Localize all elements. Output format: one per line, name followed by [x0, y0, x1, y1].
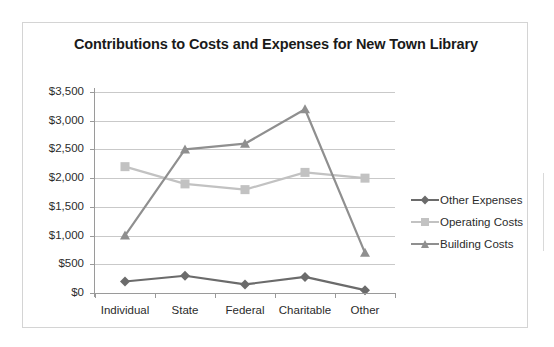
legend-swatch-diamond-icon — [411, 193, 439, 207]
data-point-triangle — [300, 104, 310, 113]
legend-item-other-expenses[interactable]: Other Expenses — [411, 189, 543, 211]
x-axis-tick — [275, 293, 276, 298]
legend-item-operating-costs[interactable]: Operating Costs — [411, 211, 543, 233]
legend-marker-diamond-icon — [421, 196, 430, 205]
data-point-square — [301, 168, 310, 177]
legend-label: Other Expenses — [439, 194, 522, 206]
y-axis-tick-label: $0 — [28, 287, 84, 298]
data-point-diamond — [300, 272, 310, 282]
x-axis-tick — [395, 293, 396, 298]
data-point-square — [241, 185, 250, 194]
data-point-triangle — [360, 248, 370, 257]
y-axis-tick-label: $1,000 — [28, 230, 84, 241]
data-point-diamond — [120, 277, 130, 287]
chart-frame: Contributions to Costs and Expenses for … — [22, 22, 528, 328]
x-axis-label-charitable: Charitable — [275, 304, 335, 316]
legend-label: Building Costs — [439, 238, 514, 250]
y-axis-tick-label: $2,500 — [28, 143, 84, 154]
x-axis-tick — [215, 293, 216, 298]
legend-item-building-costs[interactable]: Building Costs — [411, 233, 543, 255]
legend-divider — [543, 173, 544, 251]
series-line-building-costs — [125, 109, 365, 253]
x-axis-label-state: State — [155, 304, 215, 316]
x-axis-tick — [155, 293, 156, 298]
series-layer — [95, 92, 395, 293]
legend-swatch-triangle-icon — [411, 237, 439, 251]
legend-marker-square-icon — [421, 218, 429, 226]
data-point-diamond — [180, 271, 190, 281]
data-point-square — [361, 174, 370, 183]
y-axis-tick-label: $3,000 — [28, 115, 84, 126]
x-axis-label-individual: Individual — [95, 304, 155, 316]
x-axis: IndividualStateFederalCharitableOther — [95, 293, 395, 333]
y-axis-tick-label: $1,500 — [28, 201, 84, 212]
legend-label: Operating Costs — [439, 216, 523, 228]
x-axis-label-federal: Federal — [215, 304, 275, 316]
x-axis-line — [95, 293, 395, 294]
chart-title: Contributions to Costs and Expenses for … — [61, 35, 491, 54]
x-axis-tick — [95, 293, 96, 298]
data-point-square — [121, 162, 130, 171]
data-point-diamond — [240, 279, 250, 289]
y-axis-tick-label: $3,500 — [28, 86, 84, 97]
x-axis-label-other: Other — [335, 304, 395, 316]
chart-legend: Other ExpensesOperating CostsBuilding Co… — [411, 189, 543, 255]
plot-area — [95, 92, 395, 293]
y-axis-tick-label: $500 — [28, 258, 84, 269]
legend-swatch-square-icon — [411, 215, 439, 229]
data-point-square — [181, 179, 190, 188]
y-axis-tick-label: $2,000 — [28, 172, 84, 183]
x-axis-tick — [335, 293, 336, 298]
